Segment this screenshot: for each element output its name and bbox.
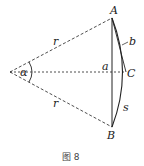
- figure-caption: 图 8: [62, 152, 80, 162]
- point-label-c: C: [127, 67, 136, 80]
- radius-label-lower: r: [53, 97, 59, 110]
- segment-label-a: a: [102, 60, 109, 73]
- chord-ac-line: [112, 18, 126, 72]
- radius-lower-line: [10, 72, 112, 127]
- chord-label-b: b: [129, 35, 136, 48]
- arc-acb: [112, 18, 123, 127]
- point-label-a: A: [109, 4, 118, 17]
- b-pointer-line: [122, 42, 128, 45]
- angle-label: α: [20, 66, 28, 79]
- arc-label-s: s: [123, 101, 129, 114]
- radius-label-upper: r: [53, 35, 59, 48]
- radius-upper-line: [10, 18, 112, 72]
- sector-diagram: A B C r r α a b s 图 8: [0, 0, 144, 166]
- point-label-b: B: [106, 129, 115, 142]
